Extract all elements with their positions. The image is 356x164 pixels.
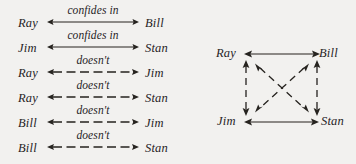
graph-node-ray: Ray (216, 47, 236, 60)
relation-source-label: Ray (18, 92, 38, 105)
relation-edge-label: confides in (48, 4, 138, 16)
relation-target-label: Bill (145, 17, 164, 30)
relation-list: Ray confides in Bill Jim confides in Sta… (0, 0, 205, 164)
relation-edge-label: doesn't (48, 104, 138, 116)
relation-arrow-dashed (46, 141, 140, 153)
relation-row: Ray doesn't Jim (0, 55, 205, 81)
edge-jim-stan (244, 118, 319, 125)
relation-arrow-dashed (46, 66, 140, 78)
relation-arrow-solid (46, 16, 140, 28)
graph-node-stan: Stan (321, 115, 344, 128)
relation-target-label: Jim (145, 67, 164, 80)
relation-target-label: Stan (145, 142, 168, 155)
relation-source-label: Bill (18, 142, 37, 155)
graph-node-bill: Bill (319, 47, 338, 60)
relation-arrow-solid (46, 41, 140, 53)
relation-edge-label: confides in (48, 29, 138, 41)
relation-arrow-dashed (46, 91, 140, 103)
relation-source-label: Jim (18, 42, 37, 55)
relation-source-label: Ray (18, 67, 38, 80)
relation-row: Ray doesn't Stan (0, 80, 205, 106)
relation-edge-label: doesn't (48, 79, 138, 91)
relation-edge-label: doesn't (48, 129, 138, 141)
relation-graph: Ray Bill Jim Stan (208, 30, 356, 142)
relation-row: Ray confides in Bill (0, 5, 205, 31)
relation-edge-label: doesn't (48, 54, 138, 66)
relation-target-label: Jim (145, 117, 164, 130)
edge-bill-stan (314, 60, 321, 116)
relation-target-label: Stan (145, 42, 168, 55)
relation-target-label: Stan (145, 92, 168, 105)
relation-row: Bill doesn't Stan (0, 130, 205, 156)
relation-source-label: Ray (18, 17, 38, 30)
relation-arrow-dashed (46, 116, 140, 128)
relation-source-label: Bill (18, 117, 37, 130)
edge-ray-jim (243, 60, 250, 116)
relation-row: Bill doesn't Jim (0, 105, 205, 131)
relation-figure: Ray confides in Bill Jim confides in Sta… (0, 0, 356, 164)
graph-node-jim: Jim (217, 115, 236, 128)
relation-row: Jim confides in Stan (0, 30, 205, 56)
edge-ray-bill (244, 50, 320, 57)
